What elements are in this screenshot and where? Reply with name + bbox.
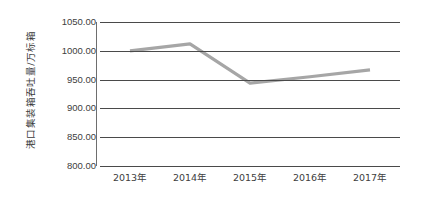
x-axis-tick-label: 2017年 [335, 170, 405, 184]
data-series-line [100, 22, 400, 166]
gridline [100, 80, 400, 81]
y-axis-tick-labels: 1050.001000.00950.00900.00850.00800.00 [38, 0, 96, 200]
y-axis-tick-label: 800.00 [40, 161, 96, 171]
gridline [100, 137, 400, 138]
y-axis-tick-label: 1050.00 [40, 17, 96, 27]
y-axis-line [96, 22, 97, 166]
gridline [100, 166, 400, 167]
gridline [100, 51, 400, 52]
line-chart: 港口集装箱吞吐量/万标箱 1050.001000.00950.00900.008… [0, 0, 421, 200]
series-polyline [130, 44, 370, 83]
gridline [100, 108, 400, 109]
gridline [100, 22, 400, 23]
x-axis-tick-labels: 2013年2014年2015年2016年2017年 [100, 170, 400, 190]
y-axis-tick-label: 900.00 [40, 103, 96, 113]
y-axis-tick-label: 850.00 [40, 132, 96, 142]
plot-area [100, 22, 400, 166]
y-axis-tick-label: 950.00 [40, 75, 96, 85]
y-axis-tick-label: 1000.00 [40, 46, 96, 56]
